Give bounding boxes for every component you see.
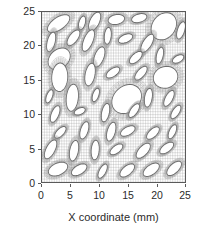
void-37 <box>117 123 138 138</box>
x-tick-25 <box>185 184 186 187</box>
void-49 <box>117 161 138 180</box>
x-ticklabel-0: 0 <box>31 190 51 201</box>
figure-canvas: 25 20 15 10 5 0 0 5 10 15 20 25 X coordi… <box>0 0 224 232</box>
x-ticklabel-25: 25 <box>175 190 195 201</box>
void-26 <box>105 78 148 120</box>
void-11 <box>115 32 136 46</box>
void-19 <box>82 58 97 91</box>
y-tick-5 <box>38 149 41 150</box>
x-tick-15 <box>128 184 129 187</box>
x-axis-title: X coordinate (mm) <box>41 211 186 223</box>
x-tick-10 <box>99 184 100 187</box>
void-38 <box>144 124 162 142</box>
void-48 <box>96 161 110 182</box>
mesh-graphic <box>42 12 185 182</box>
void-42 <box>89 136 101 164</box>
y-ticklabel-0: 0 <box>6 178 35 189</box>
x-tick-5 <box>70 184 71 187</box>
y-ticklabel-5: 5 <box>6 144 35 155</box>
y-ticklabel-15: 15 <box>6 75 35 86</box>
x-tick-0 <box>41 184 42 187</box>
y-tick-15 <box>38 80 41 81</box>
x-tick-20 <box>157 184 158 187</box>
x-ticklabel-5: 5 <box>60 190 80 201</box>
void-0 <box>42 12 74 37</box>
void-45 <box>157 139 177 156</box>
void-39 <box>166 121 178 141</box>
y-ticklabel-20: 20 <box>6 40 35 51</box>
void-51 <box>163 158 184 179</box>
void-40 <box>42 136 60 163</box>
void-17 <box>170 53 185 65</box>
y-tick-10 <box>38 114 41 115</box>
x-ticklabel-15: 15 <box>118 190 138 201</box>
void-33 <box>169 102 184 121</box>
x-ticklabel-10: 10 <box>89 190 109 201</box>
y-ticklabel-25: 25 <box>6 6 35 17</box>
plot-area <box>41 11 186 183</box>
x-ticklabel-20: 20 <box>147 190 167 201</box>
y-ticklabel-10: 10 <box>6 109 35 120</box>
y-tick-20 <box>38 45 41 46</box>
void-29 <box>48 102 62 126</box>
y-tick-25 <box>38 11 41 12</box>
